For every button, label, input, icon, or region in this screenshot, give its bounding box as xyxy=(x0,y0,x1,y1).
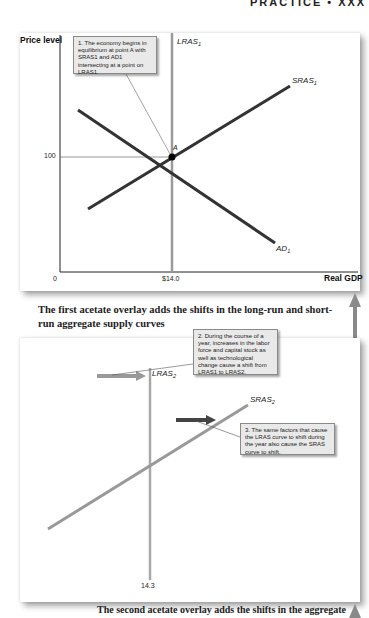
callout-3: 3. The same factors that cause the LRAS … xyxy=(240,423,335,455)
lras2-label: LRAS2 xyxy=(152,369,176,379)
sras2-label: SRAS2 xyxy=(250,395,275,405)
callout-2: 2. During the course of a year, increase… xyxy=(193,329,278,375)
gdp-tick-label-2: 14.3 xyxy=(141,582,155,589)
figure-2-graph xyxy=(0,0,369,618)
caption-second-overlay: The second acetate overlay adds the shif… xyxy=(97,603,347,617)
